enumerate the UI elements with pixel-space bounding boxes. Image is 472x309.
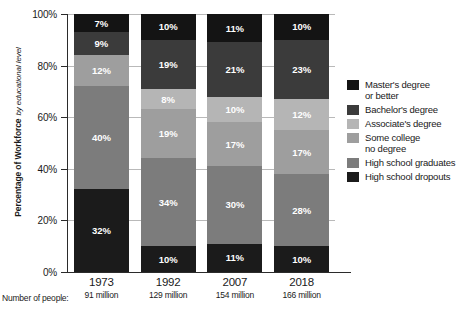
x-axis-label-1992: 1992129 million — [141, 276, 196, 300]
bar-segment[interactable]: 12% — [74, 55, 129, 86]
bar-segment[interactable]: 10% — [274, 14, 329, 40]
x-axis-year: 2007 — [207, 276, 262, 288]
bar-segment[interactable]: 10% — [141, 14, 196, 40]
y-axis-tick-label: 60% — [38, 112, 57, 123]
y-axis-title-sub: by educational level — [14, 47, 23, 115]
legend-item[interactable]: Some collegeno degree — [347, 132, 472, 154]
bar-segment[interactable]: 17% — [274, 130, 329, 174]
bar-segment[interactable]: 32% — [74, 189, 129, 272]
y-axis-tick — [61, 66, 68, 67]
x-axis-population: 129 million — [141, 290, 196, 300]
y-axis-tick — [61, 220, 68, 221]
y-axis-line — [67, 14, 68, 272]
y-axis-tick-label: 40% — [38, 163, 57, 174]
legend-swatch-icon — [347, 105, 359, 115]
bar-segment[interactable]: 30% — [207, 166, 262, 243]
bar-segment[interactable]: 12% — [274, 99, 329, 130]
y-axis-title-main: Percentage of Workforce — [13, 119, 23, 217]
y-axis-tick — [61, 272, 68, 273]
bar-segment[interactable]: 9% — [74, 32, 129, 55]
legend-label: High school graduates — [365, 157, 455, 168]
y-axis-tick — [61, 117, 68, 118]
y-axis-title: Percentage of Workforce by educational l… — [6, 52, 30, 212]
legend-label: Some collegeno degree — [365, 132, 420, 154]
legend-swatch-icon — [347, 133, 359, 143]
legend-swatch-icon — [347, 119, 359, 129]
legend-item[interactable]: High school dropouts — [347, 171, 472, 182]
legend-label: High school dropouts — [365, 171, 450, 182]
bar-segment[interactable]: 40% — [74, 86, 129, 189]
bar-1992[interactable]: 10%19%8%19%34%10% — [141, 14, 196, 272]
x-axis-line — [67, 272, 351, 273]
bar-segment[interactable]: 34% — [141, 158, 196, 246]
bar-segment[interactable]: 10% — [207, 97, 262, 123]
y-axis-tick — [61, 14, 68, 15]
legend-swatch-icon — [347, 80, 359, 90]
bar-1973[interactable]: 7%9%12%40%32% — [74, 14, 129, 272]
bar-segment[interactable]: 7% — [74, 14, 129, 32]
stacked-bar-chart: Percentage of Workforce by educational l… — [0, 0, 472, 309]
legend-label: Master's degreeor better — [365, 79, 430, 101]
legend-swatch-icon — [347, 172, 359, 182]
bar-segment[interactable]: 19% — [141, 109, 196, 158]
legend-swatch-icon — [347, 158, 359, 168]
number-of-people-label: Number of people: — [2, 293, 69, 303]
bar-segment[interactable]: 8% — [141, 89, 196, 110]
y-axis-tick-label: 80% — [38, 60, 57, 71]
chart-legend: Master's degreeor betterBachelor's degre… — [347, 79, 472, 185]
bar-segment[interactable]: 23% — [274, 40, 329, 99]
legend-item[interactable]: Bachelor's degree — [347, 104, 472, 115]
x-axis-population: 91 million — [74, 290, 129, 300]
legend-label: Associate's degree — [365, 118, 441, 129]
x-axis-label-1973: 197391 million — [74, 276, 129, 300]
y-axis-tick-label: 20% — [38, 215, 57, 226]
y-axis-tick-label: 0% — [43, 267, 57, 278]
bar-segment[interactable]: 10% — [274, 246, 329, 272]
x-axis-year: 1973 — [74, 276, 129, 288]
bar-segment[interactable]: 10% — [141, 246, 196, 272]
bar-segment[interactable]: 28% — [274, 174, 329, 246]
x-axis-label-2018: 2018166 million — [274, 276, 329, 300]
legend-item[interactable]: Associate's degree — [347, 118, 472, 129]
bar-segment[interactable]: 17% — [207, 122, 262, 166]
legend-item[interactable]: High school graduates — [347, 157, 472, 168]
y-axis-tick — [61, 169, 68, 170]
bar-segment[interactable]: 11% — [207, 14, 262, 42]
bar-segment[interactable]: 11% — [207, 244, 262, 272]
bar-segment[interactable]: 19% — [141, 40, 196, 89]
bar-segment[interactable]: 21% — [207, 42, 262, 96]
x-axis-population: 166 million — [274, 290, 329, 300]
legend-label: Bachelor's degree — [365, 104, 438, 115]
bar-2018[interactable]: 10%23%12%17%28%10% — [274, 14, 329, 272]
x-axis-year: 1992 — [141, 276, 196, 288]
legend-item[interactable]: Master's degreeor better — [347, 79, 472, 101]
plot-area: 0%20%40%60%80%100% 7%9%12%40%32%10%19%8%… — [68, 14, 335, 272]
x-axis-population: 154 million — [207, 290, 262, 300]
y-axis-tick-label: 100% — [32, 9, 57, 20]
x-axis-year: 2018 — [274, 276, 329, 288]
x-axis-label-2007: 2007154 million — [207, 276, 262, 300]
bar-2007[interactable]: 11%21%10%17%30%11% — [207, 14, 262, 272]
